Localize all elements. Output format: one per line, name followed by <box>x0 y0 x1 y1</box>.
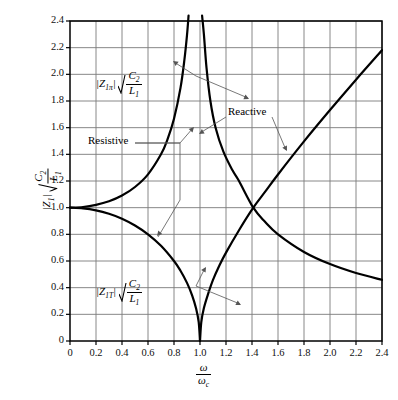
x-tick-label: 0.2 <box>84 347 108 358</box>
x-tick-label: 2.2 <box>344 347 368 358</box>
x-tick-label: 1.0 <box>188 347 212 358</box>
annotation-reactive: Reactive <box>228 105 266 117</box>
x-axis-label-fraction: ωωc <box>196 362 211 389</box>
y-tick-label: 2.4 <box>28 14 64 25</box>
x-tick-label: 0.8 <box>162 347 186 358</box>
y-tick-label: 0.4 <box>28 281 64 292</box>
y-axis-label: |Z1| C2L1 <box>33 130 62 250</box>
y-axis-label-fraction: C2L1 <box>33 169 62 184</box>
x-tick-label: 2.0 <box>318 347 342 358</box>
x-tick-label: 0 <box>58 347 82 358</box>
x-axis-label: ωωc <box>196 362 211 389</box>
x-tick-label: 0.4 <box>110 347 134 358</box>
x-tick-label: 1.2 <box>214 347 238 358</box>
annotation-z1t-symbol: |Z1T| <box>96 285 116 297</box>
y-tick-label: 0.2 <box>28 307 64 318</box>
chart-figure: 00.20.40.60.81.01.21.41.61.82.02.22.4 00… <box>0 0 398 400</box>
annotation-z1t-radical <box>119 282 127 304</box>
annotation-z1pi-symbol: |Z1π| <box>96 77 116 89</box>
y-tick-label: 2.2 <box>28 41 64 52</box>
annotation-z1t-fraction: C2L1 <box>127 278 142 307</box>
annotation-z1pi-fraction: C2L1 <box>126 70 141 99</box>
x-tick-label: 0.6 <box>136 347 160 358</box>
annotation-z1pi: |Z1π| C2L1 <box>96 70 142 99</box>
y-axis-label-z: |Z1| <box>41 194 53 210</box>
y-tick-label: 1.8 <box>28 94 64 105</box>
y-tick-label: 0.6 <box>28 254 64 265</box>
annotation-z1t: |Z1T| C2L1 <box>96 278 142 307</box>
y-tick-label: 0 <box>28 334 64 345</box>
x-tick-label: 1.4 <box>240 347 264 358</box>
y-tick-label: 2.0 <box>28 67 64 78</box>
annotation-z1pi-radical <box>118 74 126 96</box>
y-axis-sqrt-radical <box>37 184 59 192</box>
x-tick-label: 1.6 <box>266 347 290 358</box>
annotation-resistive: Resistive <box>88 134 128 146</box>
x-tick-label: 1.8 <box>292 347 316 358</box>
x-tick-label: 2.4 <box>370 347 394 358</box>
